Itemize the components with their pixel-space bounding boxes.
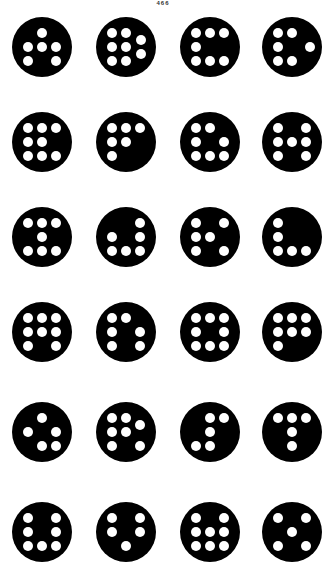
white-dot (107, 313, 117, 323)
white-dot (23, 527, 33, 537)
white-dot (301, 313, 311, 323)
white-dot (51, 427, 61, 437)
white-dot (136, 49, 146, 59)
white-dot (135, 232, 145, 242)
dot-disc-r4-c2 (96, 302, 156, 362)
dot-disc-r1-c2 (96, 17, 156, 77)
white-dot (219, 137, 229, 147)
white-dot (135, 527, 145, 537)
white-dot (135, 327, 145, 337)
white-dot (121, 28, 131, 38)
white-dot (23, 42, 33, 52)
white-dot (121, 56, 131, 66)
white-dot (51, 218, 61, 228)
dot-disc-r1-c1 (12, 17, 72, 77)
white-dot (37, 42, 47, 52)
white-dot (205, 123, 215, 133)
white-dot (23, 123, 33, 133)
white-dot (301, 327, 311, 337)
white-dot (287, 441, 297, 451)
white-dot (37, 28, 47, 38)
dot-disc-r3-c2 (96, 207, 156, 267)
white-dot (191, 123, 201, 133)
white-dot (37, 232, 47, 242)
white-dot (107, 232, 117, 242)
white-dot (273, 28, 283, 38)
white-dot (191, 151, 201, 161)
white-dot (205, 427, 215, 437)
white-dot (37, 137, 47, 147)
white-dot (287, 427, 297, 437)
white-dot (51, 327, 61, 337)
white-dot (191, 246, 201, 256)
white-dot (121, 246, 131, 256)
white-dot (191, 313, 201, 323)
white-dot (205, 413, 215, 423)
dot-disc-r5-c2 (96, 402, 156, 462)
white-dot (191, 541, 201, 551)
white-dot (23, 151, 33, 161)
white-dot (287, 246, 297, 256)
dot-disc-r6-c2 (96, 502, 156, 562)
white-dot (23, 513, 33, 523)
white-dot (273, 413, 283, 423)
white-dot (107, 341, 117, 351)
white-dot (107, 42, 117, 52)
white-dot (205, 341, 215, 351)
white-dot (37, 246, 47, 256)
white-dot (23, 246, 33, 256)
white-dot (51, 151, 61, 161)
white-dot (219, 527, 229, 537)
white-dot (191, 527, 201, 537)
white-dot (51, 123, 61, 133)
white-dot (107, 427, 117, 437)
white-dot (305, 42, 315, 52)
white-dot (219, 151, 229, 161)
white-dot (135, 341, 145, 351)
dot-disc-r1-c3 (180, 17, 240, 77)
white-dot (273, 42, 283, 52)
white-dot (205, 28, 215, 38)
white-dot (37, 413, 47, 423)
white-dot (51, 541, 61, 551)
white-dot (273, 123, 283, 133)
white-dot (287, 527, 297, 537)
dot-disc-r2-c2 (96, 112, 156, 172)
white-dot (107, 246, 117, 256)
white-dot (301, 123, 311, 133)
white-dot (107, 413, 117, 423)
white-dot (37, 151, 47, 161)
white-dot (23, 137, 33, 147)
white-dot (219, 56, 229, 66)
dot-disc-r5-c4 (262, 402, 322, 462)
white-dot (51, 42, 61, 52)
white-dot (51, 513, 61, 523)
dot-disc-r5-c1 (12, 402, 72, 462)
white-dot (219, 218, 229, 228)
white-dot (191, 28, 201, 38)
white-dot (121, 427, 131, 437)
dot-disc-r2-c1 (12, 112, 72, 172)
white-dot (219, 341, 229, 351)
white-dot (107, 527, 117, 537)
white-dot (51, 527, 61, 537)
white-dot (273, 137, 283, 147)
white-dot (135, 513, 145, 523)
white-dot (191, 232, 201, 242)
white-dot (191, 341, 201, 351)
dot-disc-r3-c4 (262, 207, 322, 267)
white-dot (23, 327, 33, 337)
dot-disc-r6-c3 (180, 502, 240, 562)
white-dot (37, 327, 47, 337)
white-dot (107, 513, 117, 523)
white-dot (51, 246, 61, 256)
white-dot (287, 137, 297, 147)
white-dot (205, 541, 215, 551)
white-dot (107, 327, 117, 337)
white-dot (51, 341, 61, 351)
white-dot (107, 28, 117, 38)
white-dot (37, 123, 47, 133)
white-dot (23, 313, 33, 323)
dot-disc-r6-c1 (12, 502, 72, 562)
white-dot (273, 56, 283, 66)
